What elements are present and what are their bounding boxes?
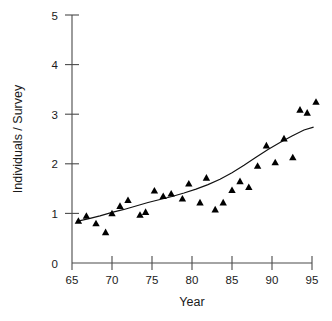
y-tick-label-1: 1 [52, 208, 58, 220]
y-tick-label-4: 4 [52, 59, 59, 71]
data-point-marker [151, 187, 158, 194]
data-point-marker [312, 98, 319, 105]
x-tick-label-75: 75 [146, 274, 159, 286]
fitted-trend-curve [77, 127, 314, 221]
data-point-marker [116, 202, 123, 209]
x-tick-label-95: 95 [306, 274, 319, 286]
data-point-marker [212, 206, 219, 213]
data-point-marker [168, 190, 175, 197]
data-point-marker [142, 208, 149, 215]
data-point-marker [196, 199, 203, 206]
y-axis-tick-labels: 5 4 3 2 1 0 [52, 10, 59, 270]
data-point-marker [236, 178, 243, 185]
y-axis-title: Individuals / Survey [11, 84, 25, 193]
data-point-marker [124, 196, 131, 203]
x-tick-label-85: 85 [226, 274, 239, 286]
data-point-marker [185, 180, 192, 187]
data-point-marker [179, 195, 186, 202]
x-axis-title: Year [179, 295, 204, 309]
x-tick-label-80: 80 [186, 274, 199, 286]
x-tick-label-70: 70 [106, 274, 119, 286]
data-point-marker [83, 212, 90, 219]
scatter-markers-group [75, 98, 320, 235]
data-point-marker [228, 186, 235, 193]
y-tick-label-3: 3 [52, 109, 58, 121]
y-tick-label-2: 2 [52, 158, 58, 170]
data-point-marker [304, 109, 311, 116]
data-point-marker [289, 154, 296, 161]
data-point-marker [102, 229, 109, 236]
data-point-marker [203, 174, 210, 181]
data-point-marker [160, 192, 167, 199]
scatter-plot-canvas: 5 4 3 2 1 0 65 70 75 80 85 90 95 [0, 0, 332, 321]
chart-figure: 5 4 3 2 1 0 65 70 75 80 85 90 95 [0, 0, 332, 321]
x-tick-label-65: 65 [66, 274, 79, 286]
axes-group [72, 15, 312, 263]
data-point-marker [245, 183, 252, 190]
data-point-marker [263, 142, 270, 149]
data-point-marker [92, 220, 99, 227]
y-tick-label-0: 0 [52, 258, 58, 270]
data-point-marker [296, 106, 303, 113]
y-tick-label-5: 5 [52, 10, 58, 22]
data-point-marker [280, 135, 287, 142]
x-axis-tick-labels: 65 70 75 80 85 90 95 [66, 274, 319, 286]
data-point-marker [272, 159, 279, 166]
data-point-marker [220, 199, 227, 206]
data-point-marker [254, 162, 261, 169]
x-tick-label-90: 90 [266, 274, 279, 286]
